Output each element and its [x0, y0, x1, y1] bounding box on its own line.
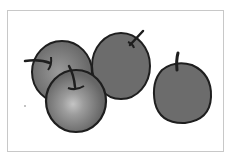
apples-illustration — [0, 0, 234, 156]
stem-icon — [177, 53, 178, 70]
right-apple — [154, 53, 211, 123]
